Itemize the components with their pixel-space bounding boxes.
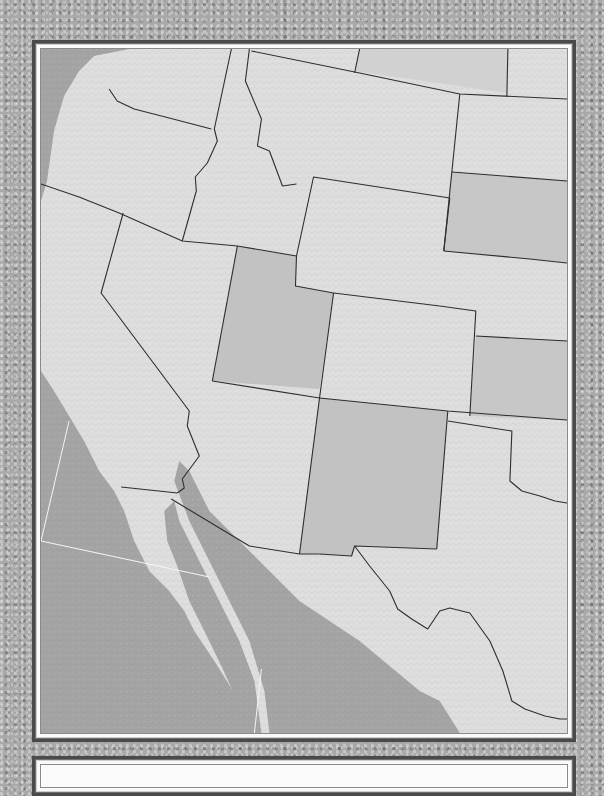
state-kansas[interactable]: [470, 336, 567, 420]
info-panel-content: [40, 764, 568, 788]
info-panel-mat: [36, 760, 572, 792]
map-frame: [32, 40, 576, 742]
state-new-mexico[interactable]: [299, 398, 447, 556]
info-panel: [32, 756, 576, 796]
map-mat: [36, 44, 572, 738]
state-south-dakota[interactable]: [444, 172, 567, 263]
state-map[interactable]: [41, 49, 567, 733]
map-viewport[interactable]: [40, 48, 568, 734]
